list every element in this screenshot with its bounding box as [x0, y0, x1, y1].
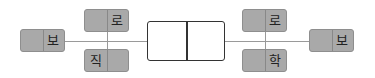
center-box — [147, 21, 225, 61]
right-top-node-label: 로 — [265, 10, 287, 31]
left-vertical-connector — [107, 32, 108, 49]
left-top-node: 로 — [84, 9, 129, 32]
right-outer-node-label: 보 — [332, 30, 354, 51]
left-outer-node-label: 보 — [43, 30, 65, 51]
node-divider — [107, 50, 108, 71]
structure-diagram: 보 로 직 로 학 보 — [0, 0, 375, 78]
left-bottom-node-label: 직 — [85, 50, 107, 71]
left-bottom-node: 직 — [84, 49, 129, 72]
right-top-node: 로 — [242, 9, 287, 32]
right-bottom-node: 학 — [242, 49, 287, 72]
right-vertical-connector — [265, 32, 266, 49]
left-outer-node: 보 — [20, 29, 65, 52]
center-box-divider — [186, 22, 188, 60]
right-bottom-node-label: 학 — [265, 50, 287, 71]
right-outer-node: 보 — [309, 29, 354, 52]
left-top-node-label: 로 — [107, 10, 129, 31]
